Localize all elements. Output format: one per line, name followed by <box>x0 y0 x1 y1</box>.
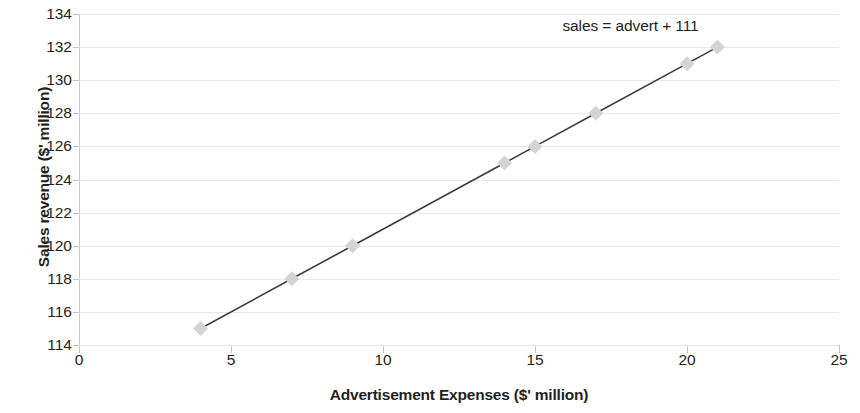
x-axis-tick-label: 20 <box>657 352 717 368</box>
data-point-marker <box>528 139 543 154</box>
x-axis-title: Advertisement Expenses ($' million) <box>79 386 839 404</box>
y-axis-tick-label: 134 <box>26 6 72 22</box>
data-point-marker <box>680 56 695 71</box>
y-axis-tick-label: 124 <box>26 172 72 188</box>
data-point-marker <box>284 271 299 286</box>
y-axis-tick-label: 126 <box>26 138 72 154</box>
y-axis-tick-label: 118 <box>26 271 72 287</box>
x-axis-tick-label: 0 <box>49 352 109 368</box>
chart-container: Sales revenue ($' million) 1141161181201… <box>0 0 860 413</box>
y-axis-tick-label: 128 <box>26 105 72 121</box>
y-axis-tick-label: 114 <box>26 337 72 353</box>
y-axis-tick-label: 116 <box>26 304 72 320</box>
y-axis-tick-label: 120 <box>26 238 72 254</box>
data-point-marker <box>345 238 360 253</box>
data-point-marker <box>588 106 603 121</box>
y-axis-tick-label: 130 <box>26 72 72 88</box>
data-point-marker <box>710 40 725 55</box>
y-axis-tick-label: 122 <box>26 205 72 221</box>
plot-area <box>79 14 839 345</box>
series-line <box>201 47 718 328</box>
x-axis-tick-label: 10 <box>353 352 413 368</box>
x-axis-tick-label: 25 <box>809 352 860 368</box>
equation-annotation: sales = advert + 111 <box>562 17 698 35</box>
gridline <box>79 345 839 346</box>
x-axis-tick-label: 5 <box>201 352 261 368</box>
data-point-marker <box>497 155 512 170</box>
data-point-marker <box>193 321 208 336</box>
data-series-layer <box>79 14 839 345</box>
y-axis-tick-label: 132 <box>26 39 72 55</box>
x-axis-tick-label: 15 <box>505 352 565 368</box>
